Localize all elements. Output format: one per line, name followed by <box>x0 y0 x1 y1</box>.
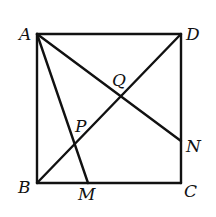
geometry-diagram: A D B C M N P Q <box>0 0 216 217</box>
diagonal-bd <box>37 34 181 183</box>
label-c: C <box>184 181 197 201</box>
label-p: P <box>74 116 87 136</box>
label-m: M <box>77 184 96 204</box>
label-a: A <box>17 24 31 44</box>
label-q: Q <box>112 70 126 90</box>
label-d: D <box>185 24 200 44</box>
label-n: N <box>185 136 202 156</box>
label-b: B <box>17 177 31 197</box>
segment-am <box>37 34 88 183</box>
segment-an <box>37 34 181 141</box>
